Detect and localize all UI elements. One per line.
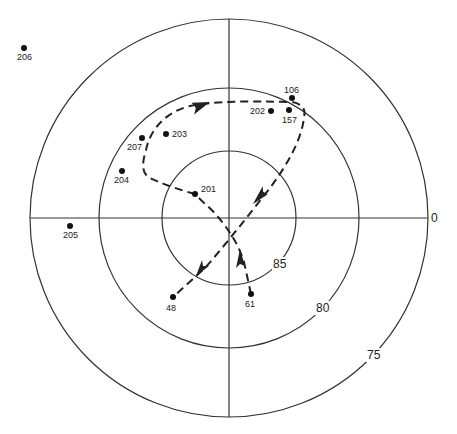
point-203	[163, 131, 169, 137]
label-106: 106	[284, 85, 299, 95]
label-61: 61	[245, 299, 255, 309]
polar-diagram: 85 80 75 0	[0, 0, 457, 434]
label-203: 203	[172, 129, 187, 139]
label-206: 206	[17, 52, 32, 62]
label-204: 204	[114, 175, 129, 185]
label-48: 48	[166, 303, 176, 313]
point-48	[170, 294, 176, 300]
label-157: 157	[282, 115, 297, 125]
point-205	[67, 223, 73, 229]
point-61	[248, 291, 254, 297]
label-202: 202	[250, 106, 265, 116]
axis-label-zero: 0	[431, 211, 438, 225]
arrow-icon	[250, 186, 270, 207]
point-204	[119, 168, 125, 174]
label-207: 207	[127, 142, 142, 152]
arrow-icon	[196, 260, 209, 276]
ring-labels: 85 80 75 0	[272, 211, 438, 362]
ring-label-80: 80	[316, 301, 330, 315]
point-201	[192, 191, 198, 197]
point-157	[286, 107, 292, 113]
point-202	[268, 108, 274, 114]
data-points	[21, 45, 295, 300]
arrow-icon	[236, 249, 245, 268]
ring-label-85: 85	[273, 257, 287, 271]
track-61	[195, 194, 251, 294]
label-201: 201	[201, 184, 216, 194]
point-207	[139, 135, 145, 141]
arrow-icon	[192, 99, 212, 114]
label-205: 205	[63, 230, 78, 240]
point-106	[289, 95, 295, 101]
ring-label-75: 75	[367, 348, 381, 362]
point-206	[21, 45, 27, 51]
